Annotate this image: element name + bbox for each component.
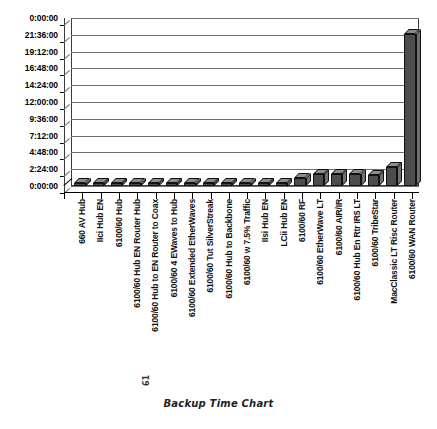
bar-face xyxy=(148,183,159,186)
bar xyxy=(203,183,214,186)
x-axis-tick-label: IIsi Hub EN xyxy=(260,199,270,242)
bar xyxy=(129,183,140,186)
y-axis-labels: 0:00:0021:36:0019:12:0016:48:0014:24:001… xyxy=(2,18,58,193)
x-axis-tick-label: 6100/60 4 EWaves to Hub xyxy=(169,199,179,297)
bar-side xyxy=(324,169,329,186)
y-axis-tick-label: 9:36:00 xyxy=(29,114,58,124)
x-axis-tick-label: 6100/60 Hub EN Router Hub xyxy=(132,199,142,308)
y-axis-tick-label: 0:00:00 xyxy=(29,13,58,23)
bar xyxy=(258,183,269,186)
bar-face xyxy=(203,183,214,186)
bar xyxy=(349,174,360,186)
x-axis-tick-label: LCii Hub EN xyxy=(279,199,289,246)
bar xyxy=(386,167,397,186)
y-axis-tick-label: 2:24:00 xyxy=(29,164,58,174)
bar xyxy=(239,183,250,186)
bar xyxy=(166,183,177,186)
bar-face xyxy=(129,183,140,186)
bar-face xyxy=(111,183,122,186)
bar xyxy=(276,183,287,187)
x-axis-tick-label: MacClassic LT Risc Router xyxy=(389,199,399,304)
y-axis-tick-label: 12:00:00 xyxy=(25,97,58,107)
x-axis-tick-label: 6100/60 Extended EtherWaves xyxy=(187,199,197,317)
x-axis-tick-label: 6100/60 TribeStar xyxy=(370,199,380,266)
bar-face xyxy=(166,183,177,186)
x-axis-tick-label: 6100/60 Hub to Backbone xyxy=(224,199,234,299)
bar-face xyxy=(331,174,342,186)
bar-face xyxy=(93,183,104,186)
plot-area xyxy=(64,18,419,193)
bar-face xyxy=(276,183,287,187)
bar xyxy=(148,183,159,186)
bar xyxy=(294,178,305,186)
gridline xyxy=(71,186,419,187)
bar-face xyxy=(239,183,250,186)
bar xyxy=(331,174,342,186)
bar-side xyxy=(361,169,366,186)
x-axis-tick-label: 6100/60 RF xyxy=(297,199,307,242)
x-axis-tick-label: IIci Hub EN xyxy=(95,199,105,242)
bar-face xyxy=(294,178,305,186)
chart-page: 0:00:0021:36:0019:12:0016:48:0014:24:001… xyxy=(0,0,437,429)
bar-chart: 0:00:0021:36:0019:12:0016:48:0014:24:001… xyxy=(0,0,437,390)
page-folio: 61 xyxy=(142,375,151,386)
x-axis-tick-label: 6100/60 EtherWave LT xyxy=(315,199,325,285)
y-axis-tick-label: 14:24:00 xyxy=(25,80,58,90)
bar xyxy=(313,174,324,186)
bar xyxy=(221,183,232,186)
y-axis-tick-label: 21:36:00 xyxy=(25,30,58,40)
bar-face xyxy=(368,175,379,186)
x-axis-tick-label: 6100/60 Hub En Rtr IR5 LT xyxy=(352,199,362,300)
x-axis-tick-label: 6100/60 w 7.5% Traffic xyxy=(242,199,252,285)
bar-face xyxy=(404,34,415,186)
bar-side xyxy=(397,162,402,186)
y-axis-tick-label: 0:00:00 xyxy=(29,181,58,191)
bar-side xyxy=(342,169,347,186)
y-axis-tick-label: 16:48:00 xyxy=(25,63,58,73)
x-axis-tick-label: 6100/60 AIR/IR xyxy=(334,199,344,255)
bar xyxy=(184,183,195,186)
x-axis-tick-label: 6100/60 Hub to EN Router to Coax xyxy=(150,199,160,332)
x-axis-tick-label: 6100/60 Tut SilverStreak xyxy=(205,199,215,293)
axis-base-connector xyxy=(64,178,72,186)
bar-side xyxy=(416,29,421,186)
x-axis-tick-label: 6100/60 Hub xyxy=(114,199,124,247)
bar-face xyxy=(313,174,324,186)
chart-caption: Backup Time Chart xyxy=(0,398,437,409)
bar-face xyxy=(74,183,85,186)
y-axis-tick-label: 4:48:00 xyxy=(29,147,58,157)
x-axis-labels: 660 AV HubIIci Hub EN6100/60 Hub6100/60 … xyxy=(64,199,419,374)
y-axis-tick-label: 19:12:00 xyxy=(25,47,58,57)
x-axis-tick-label: 660 AV Hub xyxy=(77,199,87,244)
bar-face xyxy=(258,183,269,186)
bar xyxy=(404,34,415,186)
bar xyxy=(93,183,104,186)
x-axis-tick-label: 6100/60 WAN Router xyxy=(407,199,417,279)
bar xyxy=(368,175,379,186)
bar-face xyxy=(221,183,232,186)
bar-series xyxy=(71,18,419,186)
bar xyxy=(111,183,122,186)
bar-face xyxy=(349,174,360,186)
bar-face xyxy=(386,167,397,186)
y-axis-tick-label: 7:12:00 xyxy=(29,131,58,141)
bar-face xyxy=(184,183,195,186)
bar xyxy=(74,183,85,186)
